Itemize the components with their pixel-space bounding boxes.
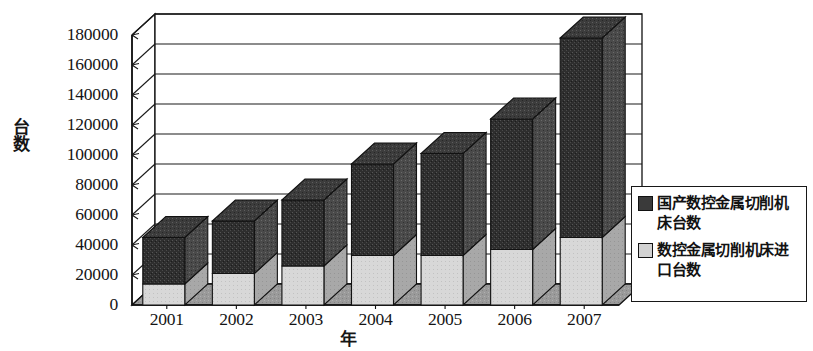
dark-swatch-icon [638,196,653,211]
chart-legend: 国产数控金属切削机床台数 数控金属切削机床进口台数 [631,186,807,302]
chart-figure: 台数 年 02000040000600008000010000012000014… [0,0,813,351]
legend-label-imported: 数控金属切削机床进口台数 [657,240,801,280]
legend-label-domestic: 国产数控金属切削机床台数 [657,193,801,233]
light-swatch-icon [638,243,653,258]
legend-item-domestic: 国产数控金属切削机床台数 [638,193,801,233]
legend-item-imported: 数控金属切削机床进口台数 [638,240,801,280]
